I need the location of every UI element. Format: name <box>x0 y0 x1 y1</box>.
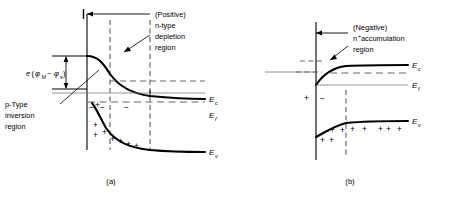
conduction-band-curve-a <box>87 56 205 99</box>
charge-positive: + <box>397 124 402 134</box>
region-label-line1-b: n + accumulation <box>353 33 405 43</box>
accumulation-width-arrow-b <box>316 30 348 35</box>
inversion-label-line3-a: region <box>5 122 26 131</box>
energy-label-ec-a: E c <box>209 95 218 106</box>
charge-positive: + <box>386 124 391 134</box>
conduction-band-curve-b <box>316 65 408 85</box>
charge-positive: + <box>362 124 367 134</box>
ef-subscript: f <box>215 116 217 122</box>
barrier-phi-m: φ <box>35 69 40 78</box>
panel-a: (Positive) n-type depletion region p-Typ… <box>5 9 218 186</box>
panel-caption-b: (b) <box>345 177 355 186</box>
charge-positive: + <box>126 139 131 149</box>
charge-positive: + <box>93 130 98 140</box>
energy-label-ev-a: E v <box>209 148 218 159</box>
charge-positive: + <box>330 125 335 135</box>
barrier-e: e <box>26 69 30 78</box>
energy-label-ef-b: E f <box>412 81 420 92</box>
charge-positive: + <box>102 127 107 137</box>
panel-caption-a: (a) <box>106 177 116 186</box>
charge-positive: + <box>93 120 98 130</box>
energy-label-ef-a: E f <box>209 111 217 122</box>
ec-subscript: c <box>215 100 218 106</box>
energy-label-ev-b: E v <box>412 117 421 128</box>
charge-negative: − <box>89 102 94 112</box>
ev-subscript: v <box>418 122 421 128</box>
n-plus-symbol: n <box>353 34 357 43</box>
region-label-line2-a: depletion <box>155 32 185 41</box>
inversion-label-line1-a: p-Type <box>5 100 28 109</box>
panel-b: (Negative) n + accumulation region E c E… <box>265 22 421 186</box>
charge-positive: + <box>320 135 325 145</box>
barrier-minus-sign: − <box>47 69 52 78</box>
charge-negative: − <box>320 93 325 103</box>
region-label-line2-b: region <box>353 45 374 54</box>
charge-positive: + <box>350 124 355 134</box>
charge-positive: + <box>95 100 100 110</box>
figure-canvas: (Positive) n-type depletion region p-Typ… <box>0 0 452 198</box>
barrier-phi-m-subscript: M <box>42 74 47 80</box>
charge-positive: + <box>340 125 345 135</box>
ev-subscript: v <box>215 153 218 159</box>
accumulation-word: accumulation <box>361 34 405 43</box>
charge-positive: + <box>110 134 115 144</box>
charge-positive: + <box>134 141 139 151</box>
charge-positive: + <box>378 124 383 134</box>
charge-positive: + <box>304 93 309 103</box>
bias-sign-label-a: (Positive) <box>155 10 186 19</box>
energy-label-ec-b: E c <box>412 61 421 72</box>
barrier-expression-a: e ( φ M − φ s ) <box>26 69 66 80</box>
barrier-phi-s: φ <box>54 69 59 78</box>
semiconductor-band-diagram-figure: (Positive) n-type depletion region p-Typ… <box>0 0 452 198</box>
charge-positive: + <box>329 135 334 145</box>
depletion-width-arrow-a <box>84 9 151 19</box>
ef-subscript: f <box>418 86 420 92</box>
inversion-label-line2-a: inversion <box>5 111 35 120</box>
valence-band-curve-a <box>92 103 205 152</box>
bias-sign-label-b: (Negative) <box>353 23 387 32</box>
charge-positive: + <box>118 136 123 146</box>
charge-negative: − <box>124 102 129 112</box>
region-label-line3-a: region <box>155 43 176 52</box>
charge-negative: − <box>100 102 105 112</box>
region-label-line1-a: n-type <box>155 21 176 30</box>
ec-subscript: c <box>418 66 421 72</box>
region-leader-arrow-a <box>124 47 131 53</box>
